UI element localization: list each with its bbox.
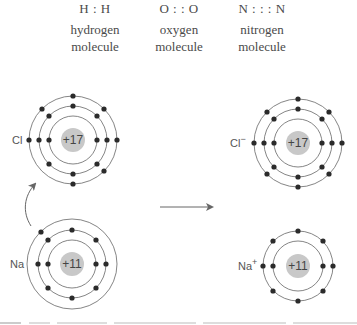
- ionic-bond-diagram: H : H hydrogen molecule O : : O oxygen m…: [0, 0, 357, 325]
- nucleus-charge: +17: [63, 133, 84, 147]
- chloride-label: Cl−: [230, 134, 246, 149]
- nucleus-charge: +11: [62, 257, 82, 271]
- sodium-atom: +11 Na: [10, 219, 117, 309]
- chlorine-atom: +17 Cl: [12, 93, 120, 186]
- atom-diagram: +17 Cl +11: [0, 0, 357, 325]
- chlorine-label: Cl: [12, 134, 22, 146]
- nucleus-charge: +17: [288, 136, 309, 150]
- sodium-label: Na: [10, 258, 25, 270]
- sodium-ion: +11 Na+: [238, 228, 336, 303]
- nucleus-charge: +11: [288, 259, 308, 273]
- cropped-caption: [0, 318, 357, 325]
- chloride-ion: +17 Cl−: [230, 96, 345, 189]
- electron-transfer-arrow: [25, 184, 35, 226]
- sodium-ion-label: Na+: [238, 257, 257, 272]
